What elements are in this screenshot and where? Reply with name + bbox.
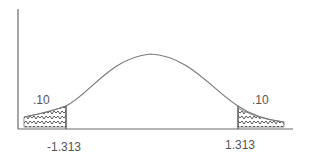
right-tail-area-label: .10: [252, 93, 269, 107]
right-critical-value-label: 1.313: [225, 138, 255, 152]
left-tail-area-label: .10: [33, 93, 50, 107]
left-critical-value-label: -1.313: [47, 140, 81, 154]
bell-curve-chart: [0, 0, 310, 162]
left-tail-shading: [24, 106, 66, 127]
